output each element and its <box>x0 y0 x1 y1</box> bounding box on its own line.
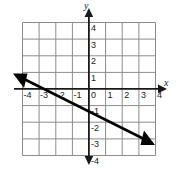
y-tick-label-3: 3 <box>91 40 96 50</box>
x-tick-label-minus1: -1 <box>73 90 81 100</box>
y-tick-label-minus4: -4 <box>91 156 99 166</box>
x-axis-tick-labels: -4 -3 -2 -1 0 1 2 3 4 <box>24 90 163 100</box>
x-tick-label-2: 2 <box>124 90 129 100</box>
y-tick-label-4: 4 <box>91 23 96 33</box>
y-tick-label-minus1: -1 <box>91 106 99 116</box>
y-tick-label-2: 2 <box>91 56 96 66</box>
y-tick-label-1: 1 <box>91 73 96 83</box>
y-tick-label-minus2: -2 <box>91 123 99 133</box>
x-tick-label-3: 3 <box>141 90 146 100</box>
x-tick-label-0: 0 <box>91 90 96 100</box>
x-tick-label-1: 1 <box>108 90 113 100</box>
x-tick-label-minus4: -4 <box>24 90 32 100</box>
x-tick-label-minus3: -3 <box>40 90 48 100</box>
coordinate-plane-svg: -4 -3 -2 -1 0 1 2 3 4 4 3 2 1 -1 -2 -3 -… <box>0 0 176 169</box>
coordinate-plane-figure: -4 -3 -2 -1 0 1 2 3 4 4 3 2 1 -1 -2 -3 -… <box>0 0 176 169</box>
x-tick-label-4: 4 <box>157 90 162 100</box>
x-axis-name-label: x <box>163 77 169 88</box>
y-tick-label-minus3: -3 <box>91 139 99 149</box>
y-axis-name-label: y <box>83 0 89 11</box>
x-tick-label-minus2: -2 <box>57 90 65 100</box>
